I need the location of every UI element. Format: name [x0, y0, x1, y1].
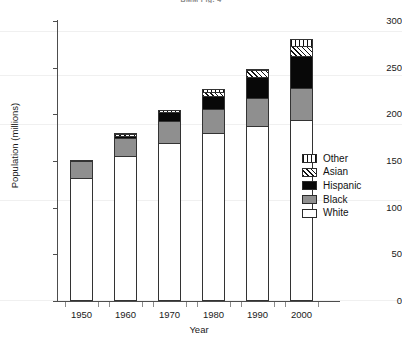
legend-item-other[interactable]: Other — [302, 152, 398, 166]
chart-legend: OtherAsianHispanicBlackWhite — [302, 152, 398, 220]
bar-segment-hispanic[interactable] — [290, 56, 313, 89]
x-tick-mark — [109, 302, 110, 307]
figure-title: BMM Fig. 4 — [0, 0, 402, 3]
legend-label: Other — [323, 154, 348, 164]
bar-1950[interactable] — [70, 160, 93, 301]
bar-segment-asian[interactable] — [114, 134, 137, 136]
legend-item-black[interactable]: Black — [302, 193, 398, 207]
y-tick-label: 200 — [368, 108, 402, 119]
bar-segment-asian[interactable] — [290, 46, 313, 55]
x-axis-line — [57, 301, 340, 302]
x-tick-mark — [274, 302, 275, 307]
bar-segment-white[interactable] — [158, 143, 181, 301]
bar-segment-black[interactable] — [290, 88, 313, 120]
x-tick-mark — [186, 302, 187, 307]
y-tick-mark — [53, 301, 58, 302]
bar-segment-white[interactable] — [246, 126, 269, 301]
bar-segment-other[interactable] — [290, 39, 313, 46]
y-tick-label: 0 — [368, 295, 402, 306]
x-tick-mark — [153, 302, 154, 307]
legend-item-white[interactable]: White — [302, 206, 398, 220]
legend-swatch-icon — [302, 181, 317, 190]
bar-segment-hispanic[interactable] — [202, 96, 225, 109]
x-tick-mark — [197, 302, 198, 307]
x-tick-mark — [241, 302, 242, 307]
bar-segment-black[interactable] — [70, 161, 93, 178]
bar-segment-asian[interactable] — [202, 92, 225, 96]
bar-segment-white[interactable] — [202, 133, 225, 301]
bar-segment-hispanic[interactable] — [246, 77, 269, 98]
bar-segment-other[interactable] — [202, 89, 225, 92]
bar-segment-other[interactable] — [246, 69, 269, 71]
legend-item-asian[interactable]: Asian — [302, 166, 398, 180]
y-tick-label: 300 — [368, 15, 402, 26]
x-tick-label: 1970 — [150, 309, 190, 320]
x-tick-mark — [98, 302, 99, 307]
legend-swatch-icon — [302, 168, 317, 177]
x-axis-label: Year — [58, 324, 340, 335]
legend-label: Black — [323, 195, 347, 205]
bar-segment-black[interactable] — [158, 121, 181, 143]
legend-swatch-icon — [302, 154, 317, 163]
bar-segment-black[interactable] — [202, 109, 225, 133]
legend-swatch-icon — [302, 195, 317, 204]
bar-segment-other[interactable] — [114, 133, 137, 134]
x-tick-mark — [142, 302, 143, 307]
bar-1960[interactable] — [114, 133, 137, 301]
bar-segment-hispanic[interactable] — [70, 160, 93, 161]
legend-label: White — [323, 208, 349, 218]
plot-area — [58, 21, 340, 301]
legend-label: Hispanic — [323, 181, 361, 191]
x-tick-label: 1980 — [194, 309, 234, 320]
legend-label: Asian — [323, 167, 348, 177]
x-tick-label: 2000 — [282, 309, 322, 320]
bar-segment-white[interactable] — [70, 178, 93, 301]
y-tick-label: 250 — [368, 62, 402, 73]
x-tick-mark — [65, 302, 66, 307]
bar-1980[interactable] — [202, 89, 225, 301]
legend-swatch-icon — [302, 209, 317, 218]
bar-segment-white[interactable] — [114, 156, 137, 301]
x-tick-mark — [230, 302, 231, 307]
x-tick-mark — [318, 302, 319, 307]
bar-1970[interactable] — [158, 111, 181, 301]
bar-segment-asian[interactable] — [246, 70, 269, 77]
legend-item-hispanic[interactable]: Hispanic — [302, 179, 398, 193]
bar-1990[interactable] — [246, 69, 269, 301]
x-tick-label: 1990 — [238, 309, 278, 320]
x-tick-mark — [285, 302, 286, 307]
x-tick-label: 1950 — [62, 309, 102, 320]
bar-segment-black[interactable] — [114, 138, 137, 157]
bar-segment-black[interactable] — [246, 98, 269, 126]
x-tick-label: 1960 — [106, 309, 146, 320]
bar-segment-other[interactable] — [158, 110, 181, 111]
y-axis-label: Population (millions) — [9, 46, 20, 246]
y-tick-label: 50 — [368, 248, 402, 259]
bar-segment-hispanic[interactable] — [158, 112, 181, 120]
bar-segment-hispanic[interactable] — [114, 136, 137, 138]
